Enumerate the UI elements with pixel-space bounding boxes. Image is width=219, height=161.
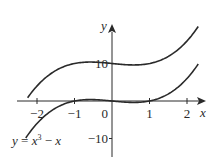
- x-tick-label: −1: [68, 106, 82, 121]
- y-tick-label: −10: [88, 131, 108, 146]
- y-axis-label: y: [99, 18, 107, 33]
- chart: −2−11210−100xy y = x3 − x: [0, 0, 219, 161]
- x-tick-label: −2: [30, 106, 44, 121]
- origin-label: 0: [102, 106, 109, 121]
- x-tick-label: 2: [184, 106, 191, 121]
- x-axis-label: x: [199, 105, 206, 120]
- equation-label: y = x3 − x: [10, 133, 61, 148]
- labels: −2−11210−100xy: [30, 18, 206, 146]
- curve-upper: [28, 27, 199, 98]
- y-axis-arrow-icon: [108, 24, 116, 33]
- x-tick-label: 1: [146, 106, 153, 121]
- y-tick-label: 10: [95, 56, 108, 71]
